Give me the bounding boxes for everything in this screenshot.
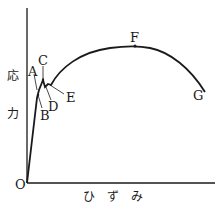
point-D-label: D: [48, 99, 58, 114]
point-G-label: G: [193, 88, 203, 103]
stress-strain-curve: [27, 47, 205, 184]
leader-B: [38, 95, 42, 108]
y-axis-label-bottom: 力: [7, 107, 19, 121]
stress-strain-diagram: 応 力 O ひ ず み A B C D E F G: [0, 0, 220, 205]
y-axis-label-top: 応: [7, 69, 19, 83]
point-C-label: C: [38, 53, 48, 68]
point-E-label: E: [66, 90, 76, 105]
x-axis-label: ひ ず み: [83, 190, 147, 204]
leader-E: [50, 85, 64, 94]
origin-label: O: [15, 177, 26, 192]
point-A-label: A: [27, 64, 38, 79]
point-F-label: F: [130, 30, 139, 45]
